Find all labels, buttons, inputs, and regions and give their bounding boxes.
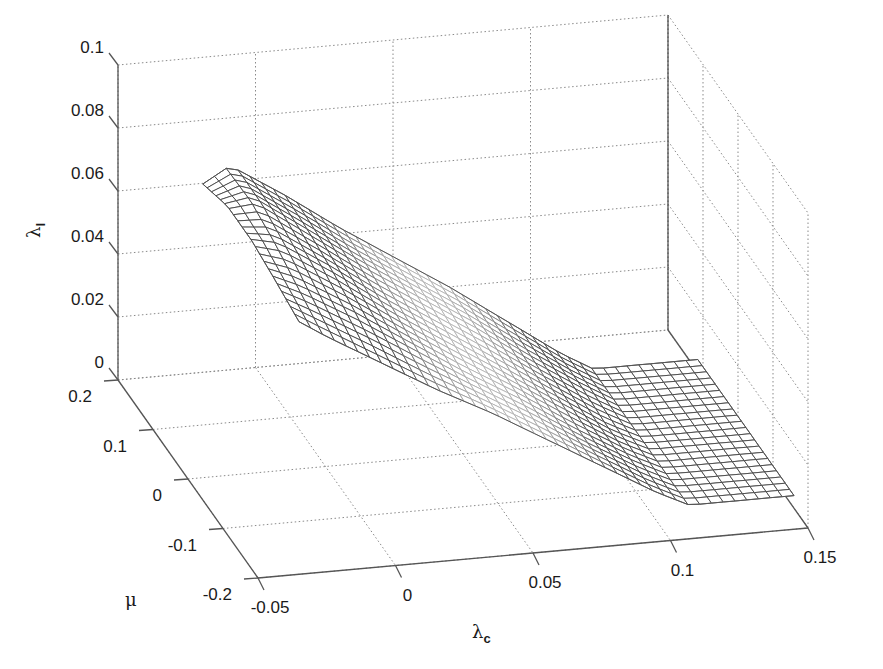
lambda-c-tick [258, 578, 264, 590]
z-tick [109, 368, 118, 380]
z-tick [109, 53, 118, 65]
mu-tick-label: 0.2 [68, 387, 92, 406]
mu-tick-label: 0 [153, 486, 162, 505]
lambda-c-tick [671, 541, 677, 553]
mu-tick-label: -0.2 [203, 585, 232, 604]
z-tick-label: 0.1 [80, 38, 104, 57]
z-axis-label: λl [23, 223, 48, 238]
right-wall-grid-diagonal [668, 78, 808, 276]
surface-plot-figure: 00.020.040.060.080.10.20.10-0.1-0.2-0.05… [0, 0, 883, 669]
floor-grid-line-lambda-c [256, 368, 396, 566]
lambda-c-tick-label: 0 [403, 586, 412, 605]
z-tick-label: 0.08 [71, 101, 104, 120]
lambda-c-tick-label: -0.05 [251, 598, 290, 617]
z-tick-label: 0 [95, 353, 104, 372]
right-wall-grid-diagonal [668, 141, 808, 339]
x-axis-label: λc [472, 621, 491, 646]
z-tick-label: 0.02 [71, 290, 104, 309]
surface-mesh [203, 168, 794, 504]
mu-tick [174, 479, 188, 480]
z-tick-label: 0.06 [71, 164, 104, 183]
mu-tick-label: 0.1 [103, 437, 127, 456]
z-tick [109, 305, 118, 317]
back-wall-grid-horizontal [118, 141, 668, 191]
mu-tick [244, 578, 258, 579]
lambda-c-tick-label: 0.1 [671, 561, 695, 580]
surface-plot-canvas: 00.020.040.060.080.10.20.10-0.1-0.2-0.05… [0, 0, 883, 669]
mu-tick [209, 529, 223, 530]
lambda-c-tick-label: 0.15 [803, 548, 836, 567]
lambda-c-tick-label: 0.05 [528, 573, 561, 592]
lambda-c-tick [808, 528, 814, 540]
mu-tick [104, 380, 118, 381]
z-tick [109, 242, 118, 254]
mu-tick [139, 430, 153, 431]
z-tick [109, 179, 118, 191]
mu-tick-label: -0.1 [168, 536, 197, 555]
z-tick [109, 116, 118, 128]
lambda-c-tick [533, 553, 539, 565]
right-wall-grid-diagonal [668, 15, 808, 213]
y-axis-label-mu: μ [125, 589, 137, 610]
z-tick-label: 0.04 [71, 227, 104, 246]
lambda-c-tick [396, 566, 402, 578]
